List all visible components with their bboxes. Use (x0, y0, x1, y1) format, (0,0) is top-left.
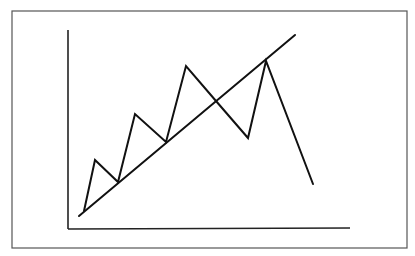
trendline-diagram (0, 0, 415, 256)
diagram-frame (12, 11, 407, 248)
x-axis (68, 228, 350, 229)
price-zigzag-line (84, 61, 313, 211)
diagram-canvas (0, 0, 415, 256)
ascending-trendline (79, 35, 295, 216)
